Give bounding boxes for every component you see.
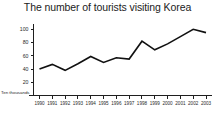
x-tick-label: 1990: [34, 101, 45, 106]
x-tick-label: 1991: [47, 101, 58, 106]
y-axis: 20406080100: [20, 24, 34, 96]
data-series-line: [40, 29, 207, 70]
y-tick-label: 40: [23, 66, 29, 72]
x-tick-label: 1992: [60, 101, 71, 106]
y-tick-labels: 20406080100: [20, 26, 29, 85]
x-tick-marks: [40, 96, 207, 100]
x-tick-label: 1996: [111, 101, 122, 106]
y-tick-label: 80: [23, 39, 29, 45]
x-axis: 1990199119921993199419951996199719981999…: [29, 96, 212, 107]
x-tick-label: 2003: [201, 101, 212, 106]
x-tick-label: 1994: [86, 101, 97, 106]
x-tick-label: 2001: [175, 101, 186, 106]
x-tick-label: 1993: [73, 101, 84, 106]
x-tick-label: 2002: [188, 101, 199, 106]
unit-label: Ten thousands: [1, 90, 30, 95]
x-tick-label: 1998: [137, 101, 148, 106]
line-chart-plot: 20406080100 1990199119921993199419951996…: [0, 0, 215, 116]
y-tick-label: 100: [20, 26, 29, 32]
y-tick-label: 60: [23, 53, 29, 59]
y-tick-label: 20: [23, 79, 29, 85]
x-tick-label: 1997: [124, 101, 135, 106]
x-tick-label: 2000: [162, 101, 173, 106]
x-tick-label: 1999: [150, 101, 161, 106]
chart-figure: The number of tourists visiting Korea 20…: [0, 0, 215, 116]
x-tick-labels: 1990199119921993199419951996199719981999…: [34, 101, 211, 106]
x-tick-label: 1995: [98, 101, 109, 106]
